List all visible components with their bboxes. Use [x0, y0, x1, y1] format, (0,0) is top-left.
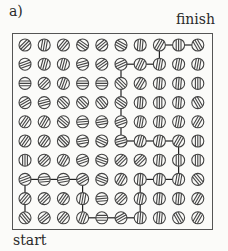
lattice-site	[38, 193, 50, 205]
lattice-site	[134, 58, 146, 71]
lattice-site	[38, 154, 50, 166]
lattice-site	[57, 135, 69, 147]
lattice-site	[192, 192, 204, 205]
lattice-site	[77, 97, 89, 109]
lattice-site	[38, 173, 50, 185]
lattice-site	[134, 96, 146, 108]
lattice-site	[57, 173, 70, 185]
lattice-site	[19, 135, 31, 148]
lattice-site	[38, 58, 50, 71]
lattice-site	[19, 97, 32, 109]
lattice-site	[57, 97, 69, 109]
lattice-site	[192, 135, 204, 147]
lattice-site	[173, 154, 185, 166]
lattice-site	[96, 212, 108, 224]
lattice-site	[115, 135, 128, 147]
lattice-site	[153, 77, 165, 89]
lattice-site	[77, 77, 89, 89]
lattice-site	[19, 154, 31, 166]
lattice-site	[57, 116, 69, 128]
lattice-site	[38, 97, 51, 109]
lattice-site	[153, 58, 165, 71]
lattice-site	[115, 58, 128, 70]
lattice-site	[134, 173, 146, 185]
lattice-site	[19, 58, 32, 70]
lattice-site	[38, 115, 50, 128]
lattice-site	[95, 135, 108, 147]
lattice-site	[153, 97, 165, 109]
lattice-site	[134, 39, 146, 51]
lattice-site	[115, 77, 127, 89]
lattice-site	[173, 211, 185, 224]
lattice-site	[134, 115, 146, 128]
lattice-site	[96, 39, 108, 51]
lattice-site	[192, 211, 204, 224]
lattice-site	[77, 192, 89, 205]
lattice-site	[134, 212, 146, 224]
lattice-site	[19, 212, 31, 224]
lattice-site	[153, 192, 165, 204]
lattice-site	[96, 77, 108, 89]
lattice-site	[153, 173, 165, 185]
lattice-site	[115, 97, 128, 109]
lattice-site	[96, 58, 109, 70]
lattice-site	[76, 39, 89, 51]
lattice-site	[134, 77, 146, 90]
lattice-site	[153, 116, 165, 128]
lattice-site	[192, 58, 204, 71]
lattice-site	[19, 116, 31, 129]
lattice-site	[173, 58, 185, 71]
lattice-site	[115, 154, 127, 166]
lattice-site	[76, 173, 89, 185]
lattice-site	[57, 154, 69, 167]
lattice-site	[192, 96, 204, 109]
lattice-site	[76, 116, 88, 128]
lattice-site	[96, 193, 108, 205]
path-lines	[25, 45, 198, 218]
lattice-site	[57, 58, 69, 71]
lattice-site	[38, 39, 50, 52]
lattice-site	[173, 77, 185, 89]
lattice-site	[134, 154, 146, 166]
lattice-site	[115, 212, 128, 224]
lattice-site	[173, 39, 185, 51]
lattice-site	[38, 212, 50, 224]
lattice-site	[115, 193, 127, 205]
lattice-site	[57, 192, 69, 205]
start-label: start	[13, 233, 46, 247]
lattice-site	[134, 135, 146, 148]
lattice-site	[96, 96, 108, 108]
lattice-site	[173, 96, 185, 108]
lattice-site	[173, 192, 185, 204]
lattice-site	[57, 77, 69, 90]
lattice-site	[57, 39, 69, 51]
lattice-site	[192, 115, 204, 128]
lattice-site	[76, 154, 89, 166]
lattice-site	[153, 135, 165, 148]
lattice-site	[173, 173, 185, 186]
lattice-site	[76, 58, 89, 70]
lattice-site	[19, 77, 31, 89]
lattice-site	[115, 173, 127, 186]
lattice-site	[38, 135, 50, 148]
lattice-site	[19, 192, 31, 204]
lattice-site	[95, 116, 108, 128]
lattice-site	[134, 192, 146, 205]
lattice-site	[192, 173, 204, 185]
lattice-site	[173, 115, 185, 128]
lattice-site	[38, 77, 50, 89]
lattice-site	[192, 154, 204, 166]
lattice-site	[95, 154, 108, 166]
lattice-site	[19, 173, 32, 185]
lattice-site	[192, 77, 204, 89]
lattice-site	[115, 116, 128, 128]
lattice-site	[77, 211, 89, 224]
lattice-site	[153, 39, 165, 52]
lattice-site	[153, 212, 165, 224]
lattice-site	[192, 39, 204, 52]
lattice-site	[115, 39, 128, 51]
lattice-site	[76, 135, 89, 147]
lattice-site	[153, 154, 165, 166]
lattice-site	[95, 173, 108, 185]
lattice-diagram	[0, 0, 228, 251]
